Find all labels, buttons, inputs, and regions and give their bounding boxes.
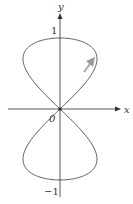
tick-label-bottom: −1 <box>44 186 59 197</box>
y-axis-arrow-icon <box>58 13 63 19</box>
origin-label: 0 <box>49 113 56 124</box>
x-axis-arrow-icon <box>115 107 121 112</box>
tick-label-top: 1 <box>51 25 57 36</box>
x-axis-label: x <box>124 104 130 115</box>
direction-arrow-icon <box>84 57 95 72</box>
origin-point <box>58 107 61 110</box>
y-axis-label: y <box>57 1 64 12</box>
parametric-plot: y x 1 −1 0 <box>0 0 133 204</box>
